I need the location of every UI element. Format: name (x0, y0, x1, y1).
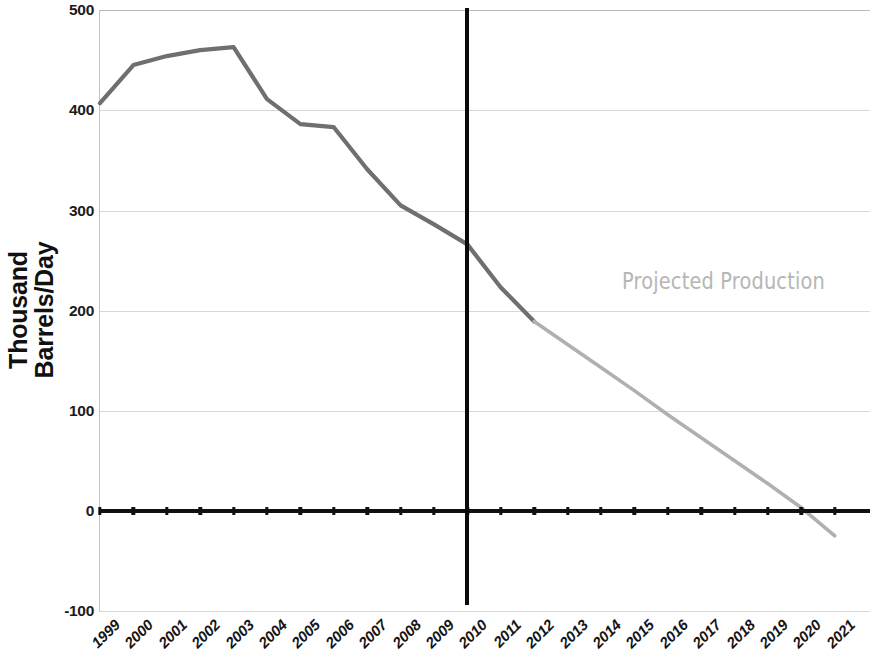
x-axis-tick-labels: 1999200020012002200320042005200620072008… (99, 612, 870, 668)
x-axis-tick-2011 (499, 507, 502, 515)
x-label-2017: 2017 (689, 616, 724, 651)
x-label-2021: 2021 (823, 616, 858, 651)
projected-production-annotation: Projected Production (622, 268, 825, 294)
x-label-2013: 2013 (556, 616, 591, 651)
x-axis-tick-2020 (800, 507, 803, 515)
x-label-2009: 2009 (422, 616, 457, 651)
x-label-2007: 2007 (355, 616, 390, 651)
x-axis-tick-1999 (98, 507, 101, 515)
x-axis-tick-2004 (265, 507, 268, 515)
x-axis-bar (99, 509, 870, 513)
x-axis-tick-2018 (733, 507, 736, 515)
y-tick-0: 0 (54, 502, 94, 520)
x-label-2003: 2003 (222, 616, 257, 651)
x-axis-zero-line (99, 507, 870, 514)
x-label-2015: 2015 (622, 616, 657, 651)
x-axis-tick-2005 (299, 507, 302, 515)
x-label-2004: 2004 (255, 616, 290, 651)
x-axis-tick-2007 (365, 507, 368, 515)
x-label-2014: 2014 (589, 616, 624, 651)
plot-area: Projected Production (99, 10, 870, 611)
x-label-2018: 2018 (723, 616, 758, 651)
x-axis-tick-2003 (232, 507, 235, 515)
x-label-2010: 2010 (455, 616, 490, 651)
y-tick-100: 100 (54, 402, 94, 420)
projection-divider-line (465, 8, 469, 605)
y-tick-400: 400 (54, 101, 94, 119)
projected-production-line (534, 322, 835, 536)
y-tick-neg100: -100 (54, 602, 94, 620)
series-plot (99, 10, 870, 611)
x-label-2011: 2011 (490, 616, 524, 650)
x-label-2002: 2002 (188, 616, 223, 651)
x-axis-tick-2008 (399, 507, 402, 515)
x-label-2008: 2008 (389, 616, 424, 651)
x-axis-tick-2001 (165, 507, 168, 515)
x-axis-tick-2015 (633, 507, 636, 515)
y-axis-tick-labels: 500 400 300 200 100 0 -100 (48, 0, 94, 668)
y-tick-200: 200 (54, 302, 94, 320)
x-axis-tick-2016 (666, 507, 669, 515)
x-label-2016: 2016 (656, 616, 691, 651)
x-axis-tick-2013 (566, 507, 569, 515)
x-axis-tick-2000 (132, 507, 135, 515)
y-tick-500: 500 (54, 1, 94, 19)
x-axis-tick-2002 (198, 507, 201, 515)
y-tick-300: 300 (54, 202, 94, 220)
x-axis-tick-2006 (332, 507, 335, 515)
x-label-2006: 2006 (322, 616, 357, 651)
x-axis-tick-2021 (833, 507, 836, 515)
x-axis-tick-2017 (699, 507, 702, 515)
x-label-2012: 2012 (522, 616, 557, 651)
x-axis-tick-2009 (432, 507, 435, 515)
x-label-2020: 2020 (789, 616, 824, 651)
x-label-2019: 2019 (756, 616, 791, 651)
chart-figure: Thousand Barrels/Day 500 400 300 200 100… (0, 0, 870, 668)
x-label-2005: 2005 (288, 616, 323, 651)
y-axis-title-line1: Thousand (4, 251, 32, 369)
x-axis-tick-2012 (532, 507, 535, 515)
x-label-2001: 2001 (155, 616, 190, 651)
x-label-2000: 2000 (121, 616, 156, 651)
x-axis-tick-2019 (766, 507, 769, 515)
x-axis-tick-2014 (599, 507, 602, 515)
